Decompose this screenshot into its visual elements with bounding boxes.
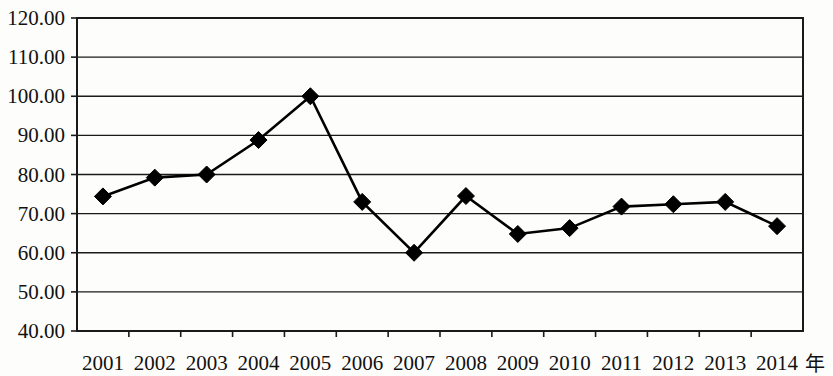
x-axis-tick-label: 2007 — [393, 351, 435, 375]
x-axis-tick-label: 2001 — [82, 351, 124, 375]
y-axis-tick-label: 120.00 — [7, 6, 65, 30]
y-axis-tick-label: 80.00 — [18, 163, 65, 187]
gridlines — [71, 18, 803, 331]
y-axis-tick-label: 100.00 — [7, 84, 65, 108]
line-chart-figure: 40.0050.0060.0070.0080.0090.00100.00110.… — [0, 0, 833, 376]
x-axis-tick-label: 2011 — [601, 351, 642, 375]
x-axis-tick-label: 2010 — [549, 351, 591, 375]
x-axis-tick-label: 2004 — [238, 351, 281, 375]
y-axis-tick-label: 40.00 — [18, 319, 65, 343]
y-axis-tick-labels: 40.0050.0060.0070.0080.0090.00100.00110.… — [7, 6, 65, 343]
x-axis-tick-label: 2012 — [652, 351, 694, 375]
x-axis-tick-label: 2005 — [289, 351, 331, 375]
y-axis-tick-label: 110.00 — [8, 45, 65, 69]
x-axis-tick-labels: 2001200220032004200520062007200820092010… — [82, 351, 799, 375]
data-point-marker — [561, 220, 578, 237]
data-point-marker — [198, 166, 215, 183]
data-point-marker — [94, 188, 111, 205]
x-axis-unit-label: 年 — [805, 353, 825, 375]
x-axis-tick-label: 2014 — [756, 351, 799, 375]
chart-canvas: 40.0050.0060.0070.0080.0090.00100.00110.… — [0, 0, 833, 376]
x-axis-tick-label: 2008 — [445, 351, 487, 375]
data-point-marker — [717, 193, 734, 210]
y-axis-tick-label: 60.00 — [18, 241, 65, 265]
y-axis-tick-label: 90.00 — [18, 123, 65, 147]
x-axis-tick-label: 2002 — [134, 351, 176, 375]
data-point-marker — [613, 198, 630, 215]
data-point-marker — [146, 169, 163, 186]
y-axis-tick-label: 50.00 — [18, 280, 65, 304]
data-point-marker — [769, 218, 786, 235]
x-axis-tick-label: 2013 — [704, 351, 746, 375]
y-axis-tick-label: 70.00 — [18, 202, 65, 226]
x-axis-tick-label: 2009 — [497, 351, 539, 375]
x-axis-tick-label: 2003 — [186, 351, 228, 375]
data-point-marker — [665, 196, 682, 213]
x-axis-tick-label: 2006 — [341, 351, 383, 375]
